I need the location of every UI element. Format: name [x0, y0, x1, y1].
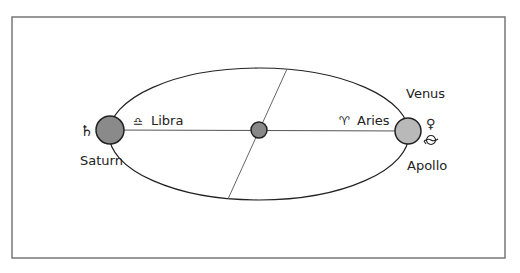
- saturn-symbol-icon: ♄: [80, 122, 93, 140]
- saturn-label: Saturn: [80, 153, 123, 168]
- libra-symbol-icon: ♎: [133, 115, 143, 128]
- aries-label: Aries: [357, 113, 390, 128]
- aries-symbol-icon: ♈: [339, 114, 350, 128]
- orbit-diagram: ♄ Saturn ♎ Libra ♈ Aries Venus ♀ Apollo: [0, 0, 520, 273]
- venus-label: Venus: [406, 86, 445, 101]
- center-body: [251, 122, 267, 138]
- venus-symbol-icon: ♀: [426, 116, 436, 131]
- saturn-body: [96, 116, 124, 144]
- apollo-label: Apollo: [407, 158, 447, 173]
- venus-body: [395, 118, 421, 144]
- libra-label: Libra: [151, 113, 183, 128]
